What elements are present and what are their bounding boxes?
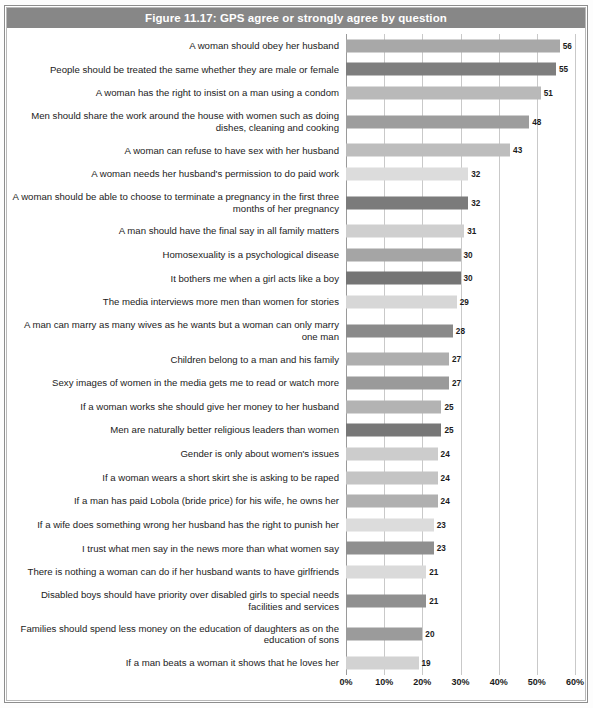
- chart-bar-row: Sexy images of women in the media gets m…: [7, 371, 585, 395]
- bar: [346, 225, 464, 238]
- bar-category-label: If a man has paid Lobola (bride price) f…: [7, 495, 346, 507]
- bar-track: 23: [346, 537, 585, 561]
- bar-track: 24: [346, 442, 585, 466]
- bar-track: 21: [346, 584, 585, 618]
- chart-bar-row: The media interviews more men than women…: [7, 290, 585, 314]
- bar: [346, 495, 438, 508]
- bar-track: 20: [346, 617, 585, 651]
- bar-value-label: 31: [467, 227, 476, 236]
- bar-value-label: 20: [425, 630, 434, 639]
- bar-category-label: A woman can refuse to have sex with her …: [7, 145, 346, 157]
- bar-plot-cell: 32: [346, 186, 585, 220]
- bar-track: 21: [346, 560, 585, 584]
- chart-bar-row: A man can marry as many wives as he want…: [7, 314, 585, 348]
- chart-bar-row: A woman has the right to insist on a man…: [7, 81, 585, 105]
- bar-value-label: 55: [559, 65, 568, 74]
- figure-title-band: Figure 11.17: GPS agree or strongly agre…: [7, 8, 585, 28]
- bar-track: 25: [346, 395, 585, 419]
- bar-plot-cell: 23: [346, 513, 585, 537]
- bar-category-label: I trust what men say in the news more th…: [7, 543, 346, 555]
- bar-plot-cell: 23: [346, 537, 585, 561]
- bar-category-label: A man can marry as many wives as he want…: [7, 319, 346, 342]
- bar-category-label: Disabled boys should have priority over …: [7, 589, 346, 612]
- chart-bar-row: A man should have the final say in all f…: [7, 219, 585, 243]
- chart-bar-row: A woman should obey her husband56: [7, 34, 585, 58]
- bar-category-label: There is nothing a woman can do if her h…: [7, 566, 346, 578]
- x-axis-tick-label: 50%: [528, 677, 546, 687]
- bar: [346, 471, 438, 484]
- bar: [346, 144, 510, 157]
- bar-track: 32: [346, 186, 585, 220]
- chart-bar-row: A woman needs her husband's permission t…: [7, 162, 585, 186]
- page-title: Figure 11.17: GPS agree or strongly agre…: [145, 12, 447, 24]
- bar-track: 29: [346, 290, 585, 314]
- bar-value-label: 51: [544, 89, 553, 98]
- bar-value-label: 25: [444, 426, 453, 435]
- bar-value-label: 24: [441, 473, 450, 482]
- bar-value-label: 29: [460, 298, 469, 307]
- bar: [346, 39, 560, 52]
- bar-value-label: 32: [471, 198, 480, 207]
- bar-category-label: Families should spend less money on the …: [7, 623, 346, 646]
- bar-plot-cell: 31: [346, 219, 585, 243]
- bar: [346, 542, 434, 555]
- bar-plot-cell: 29: [346, 290, 585, 314]
- bar-category-label: A woman needs her husband's permission t…: [7, 168, 346, 180]
- bar-category-label: A woman should obey her husband: [7, 40, 346, 52]
- bar-value-label: 30: [464, 274, 473, 283]
- bar-track: 43: [346, 139, 585, 163]
- bar-track: 55: [346, 58, 585, 82]
- x-axis-tick-label: 10%: [375, 677, 393, 687]
- bar-plot-cell: 27: [346, 371, 585, 395]
- bar-category-label: Sexy images of women in the media gets m…: [7, 377, 346, 389]
- bar-value-label: 21: [429, 596, 438, 605]
- bar-category-label: If a woman wears a short skirt she is as…: [7, 472, 346, 484]
- bar-value-label: 25: [444, 402, 453, 411]
- bar-category-label: The media interviews more men than women…: [7, 296, 346, 308]
- bar-track: 19: [346, 651, 585, 675]
- bar-track: 48: [346, 105, 585, 139]
- figure-container: Figure 11.17: GPS agree or strongly agre…: [0, 0, 593, 708]
- x-axis-tick-label: 0%: [339, 677, 352, 687]
- bar: [346, 353, 449, 366]
- bar: [346, 376, 449, 389]
- bar-category-label: Homosexuality is a psychological disease: [7, 249, 346, 261]
- chart-bar-row: There is nothing a woman can do if her h…: [7, 560, 585, 584]
- bar-plot-cell: 21: [346, 560, 585, 584]
- bar-plot-cell: 20: [346, 617, 585, 651]
- bar-value-label: 30: [464, 250, 473, 259]
- bar-plot-cell: 19: [346, 651, 585, 675]
- bar: [346, 248, 461, 261]
- bar-value-label: 28: [456, 326, 465, 335]
- bar-value-label: 21: [429, 568, 438, 577]
- bar-track: 56: [346, 34, 585, 58]
- bar: [346, 196, 468, 209]
- bar: [346, 424, 441, 437]
- bar-value-label: 23: [437, 544, 446, 553]
- bar: [346, 272, 461, 285]
- bar-category-label: Gender is only about women's issues: [7, 448, 346, 460]
- chart-bar-row: Homosexuality is a psychological disease…: [7, 243, 585, 267]
- bar-plot-cell: 25: [346, 418, 585, 442]
- bar-value-label: 24: [441, 497, 450, 506]
- bar-track: 25: [346, 418, 585, 442]
- bar-track: 51: [346, 81, 585, 105]
- chart-bar-row: A woman should be able to choose to term…: [7, 186, 585, 220]
- bar-track: 23: [346, 513, 585, 537]
- bar-track: 30: [346, 243, 585, 267]
- chart-bar-row: People should be treated the same whethe…: [7, 58, 585, 82]
- bar: [346, 87, 541, 100]
- chart-bar-row: I trust what men say in the news more th…: [7, 537, 585, 561]
- bar-value-label: 27: [452, 355, 461, 364]
- bar-track: 24: [346, 489, 585, 513]
- bar-plot-cell: 48: [346, 105, 585, 139]
- bar-value-label: 32: [471, 169, 480, 178]
- bar: [346, 296, 457, 309]
- chart-bar-row: Families should spend less money on the …: [7, 617, 585, 651]
- chart-bar-row: If a wife does something wrong her husba…: [7, 513, 585, 537]
- bar-track: 31: [346, 219, 585, 243]
- bar-plot-cell: 30: [346, 243, 585, 267]
- bar: [346, 518, 434, 531]
- bar: [346, 400, 441, 413]
- bar-value-label: 24: [441, 449, 450, 458]
